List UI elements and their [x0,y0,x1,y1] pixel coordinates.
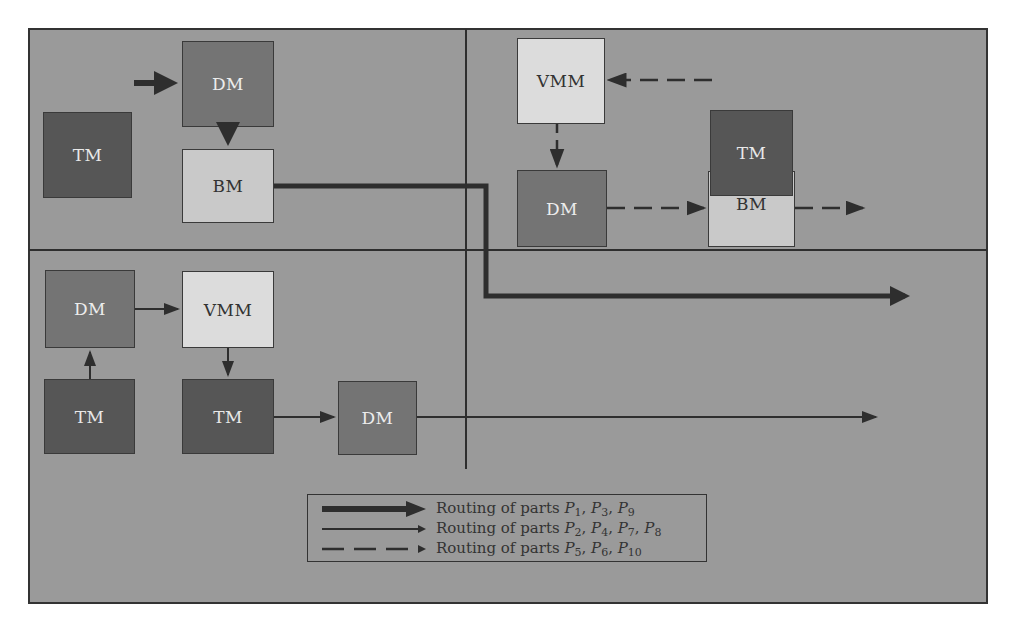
machine-label: TM [75,407,105,427]
machine-label: DM [361,408,393,428]
machine-dm-bottom-left-2: DM [338,381,417,455]
legend-row-thin: Routing of parts P2, P4, P7, P8 [318,519,661,539]
thick-arrow-icon [318,499,428,519]
thin-arrow-icon [318,519,428,539]
dashed-arrow-icon [318,539,428,559]
machine-label: BM [736,194,767,214]
legend-label: Routing of parts P5, P6, P10 [436,539,642,559]
machine-tm-bottom-left-1: TM [44,379,135,454]
legend: Routing of parts P1, P3, P9 Routing of p… [307,494,707,562]
legend-row-thick: Routing of parts P1, P3, P9 [318,499,635,519]
machine-label: DM [546,199,578,219]
machine-label: DM [74,299,106,319]
machine-dm-bottom-left-1: DM [45,270,135,348]
machine-label: VMM [204,300,253,320]
machine-tm-bottom-left-2: TM [182,379,274,454]
zone-divider-horizontal [29,249,987,251]
machine-vmm-bottom-left: VMM [182,271,274,348]
machine-bm-top-left: BM [182,149,274,223]
zone-divider-vertical [465,29,467,469]
legend-row-dashed: Routing of parts P5, P6, P10 [318,539,642,559]
legend-label: Routing of parts P2, P4, P7, P8 [436,519,661,539]
machine-label: BM [213,176,244,196]
machine-dm-top-left: DM [182,41,274,127]
machine-vmm-top-right: VMM [517,38,605,124]
machine-label: TM [73,145,103,165]
machine-label: TM [213,407,243,427]
machine-tm-top-right: TM [710,110,793,196]
machine-label: DM [212,74,244,94]
machine-tm-top-left: TM [43,112,132,198]
machine-label: VMM [537,71,586,91]
machine-dm-top-right: DM [517,170,607,247]
machine-label: TM [737,143,767,163]
legend-label: Routing of parts P1, P3, P9 [436,499,635,519]
